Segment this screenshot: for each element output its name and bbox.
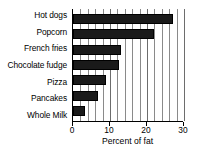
table-row [73, 45, 183, 55]
category-label: Pancakes [31, 94, 69, 103]
x-axis-title: Percent of fat [72, 136, 183, 147]
x-axis-tick-label: 0 [70, 125, 75, 135]
table-row [73, 75, 183, 85]
bar [73, 45, 121, 55]
category-label: Pizza [47, 78, 69, 87]
category-label: Whole Milk [27, 111, 69, 120]
table-row [73, 14, 183, 24]
category-label: Hot dogs [34, 11, 69, 20]
bar [73, 106, 85, 116]
table-row [73, 29, 183, 39]
category-label: Popcorn [37, 28, 70, 37]
table-row [73, 106, 183, 116]
category-label: French fries [24, 44, 69, 53]
bar [73, 60, 119, 70]
x-axis-tick-label: 10 [104, 125, 113, 135]
x-axis-tick-labels: 0102030 [0, 125, 197, 136]
table-row [73, 91, 183, 101]
bar-chart: Hot dogs Popcorn French fries Chocolate … [0, 0, 197, 149]
gridline [184, 9, 185, 121]
x-axis-tick-label: 30 [178, 125, 187, 135]
bar [73, 14, 173, 24]
bar [73, 91, 98, 101]
category-axis-labels: Hot dogs Popcorn French fries Chocolate … [0, 11, 69, 120]
category-label: Chocolate fudge [8, 61, 70, 70]
bar [73, 75, 106, 85]
bar-series [73, 9, 183, 121]
bar [73, 29, 154, 39]
x-axis-tick-label: 20 [141, 125, 150, 135]
table-row [73, 60, 183, 70]
plot-area [72, 9, 183, 122]
